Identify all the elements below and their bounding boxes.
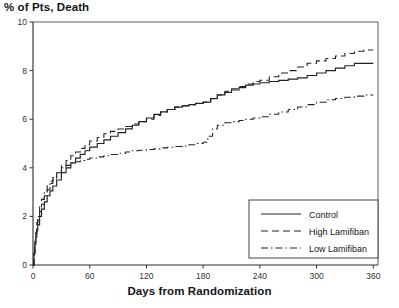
- x-axis-title: Days from Randomization: [0, 285, 399, 297]
- x-tick-label: 360: [366, 271, 380, 281]
- x-tick-label: 0: [31, 271, 36, 281]
- y-tick-label: 8: [22, 66, 27, 76]
- x-tick-label: 60: [85, 271, 95, 281]
- legend-label: Low Lamifiban: [309, 244, 367, 254]
- legend-box[interactable]: ControlHigh LamifibanLow Lamifiban: [249, 200, 378, 258]
- x-tick-label: 120: [139, 271, 153, 281]
- legend-label: High Lamifiban: [309, 227, 369, 237]
- x-tick-label: 240: [253, 271, 267, 281]
- y-tick-label: 0: [22, 260, 27, 270]
- chart-container: % of Pts, Death 024681006012018024030036…: [0, 0, 399, 308]
- y-tick-label: 10: [18, 17, 28, 27]
- x-tick-label: 180: [196, 271, 210, 281]
- y-tick-label: 4: [22, 163, 27, 173]
- y-tick-label: 6: [22, 114, 27, 124]
- y-tick-label: 2: [22, 211, 27, 221]
- chart-plot-area: 0246810060120180240300360 ControlHigh La…: [0, 0, 399, 308]
- x-tick-label: 300: [309, 271, 323, 281]
- legend-label: Control: [309, 210, 338, 220]
